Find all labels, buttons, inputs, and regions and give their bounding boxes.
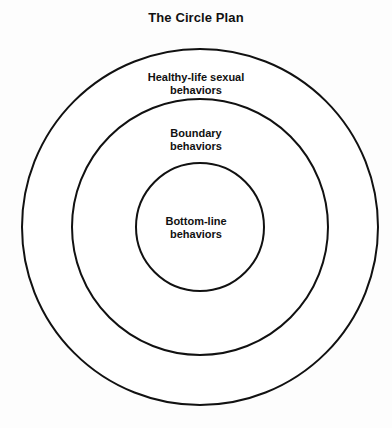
outer-ring-label: Healthy-life sexual behaviors xyxy=(0,71,392,96)
concentric-circles-graphic xyxy=(0,0,392,428)
inner-circle-label: Bottom-line behaviors xyxy=(0,215,392,240)
middle-ring-label: Boundary behaviors xyxy=(0,127,392,152)
circle-plan-diagram: The Circle Plan Healthy-life sexual beha… xyxy=(0,0,392,428)
